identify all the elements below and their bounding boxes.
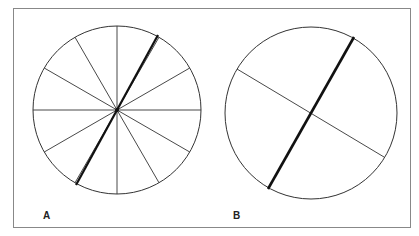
spoke-line xyxy=(117,110,190,152)
panel-a-label: A xyxy=(43,210,50,221)
center-dot-a xyxy=(115,108,119,112)
thick-diameter-line-b xyxy=(268,37,354,189)
spoke-line xyxy=(44,68,117,110)
panel-b-label: B xyxy=(233,210,240,221)
spoke-line xyxy=(117,110,159,183)
spoke-line xyxy=(75,37,117,110)
panel-b-circle-with-crossed-lines xyxy=(225,27,397,199)
panel-a-circle-with-spokes xyxy=(33,26,201,194)
diagram-canvas xyxy=(0,0,419,236)
